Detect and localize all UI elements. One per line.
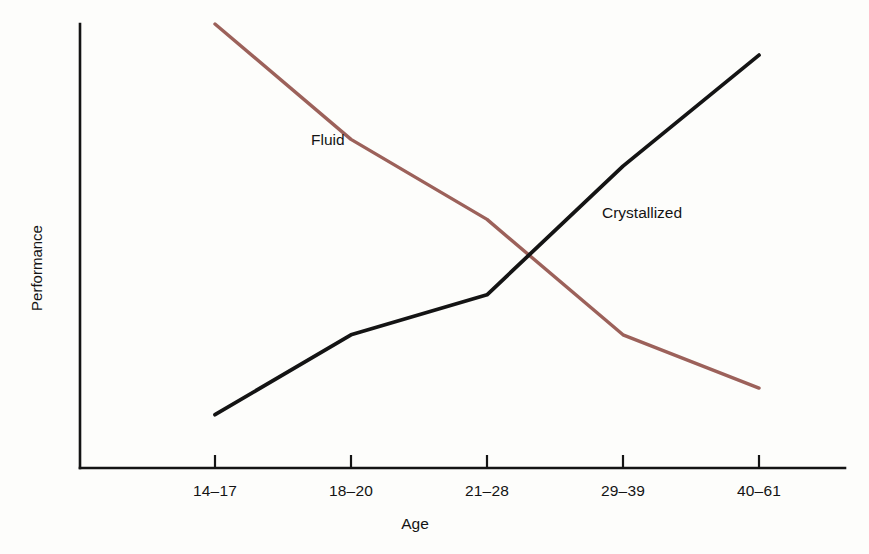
y-axis-title: Performance xyxy=(28,225,45,311)
x-axis-ticks xyxy=(215,455,759,468)
line-chart-plot: 14–17 18–20 21–28 29–39 40–61 Age Perfor… xyxy=(0,0,869,554)
x-axis-title: Age xyxy=(401,515,429,532)
series-annotation-fluid: Fluid xyxy=(311,131,345,148)
x-tick-label-1: 18–20 xyxy=(329,482,373,499)
series-line-crystallized xyxy=(215,55,759,415)
chart-figure: 14–17 18–20 21–28 29–39 40–61 Age Perfor… xyxy=(0,0,869,554)
x-tick-label-0: 14–17 xyxy=(193,482,237,499)
x-tick-label-2: 21–28 xyxy=(465,482,509,499)
x-tick-label-3: 29–39 xyxy=(601,482,645,499)
x-tick-label-4: 40–61 xyxy=(737,482,781,499)
series-annotation-crystallized: Crystallized xyxy=(602,204,682,221)
